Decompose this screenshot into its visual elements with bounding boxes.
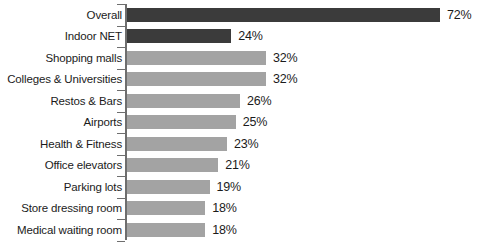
bar-row: Restos & Bars26%: [0, 90, 480, 112]
category-label: Indoor NET: [65, 30, 122, 42]
bar-track: [127, 158, 218, 172]
bar: [127, 8, 440, 22]
bar-row: Colleges & Universities32%: [0, 69, 480, 91]
bar-row: Office elevators21%: [0, 155, 480, 177]
bar: [127, 29, 231, 43]
bar-value-label: 18%: [212, 223, 236, 236]
category-label: Office elevators: [45, 159, 122, 171]
bar-track: [127, 29, 231, 43]
bar-value-label: 24%: [238, 30, 262, 43]
bar-value-label: 18%: [212, 202, 236, 215]
bar: [127, 201, 205, 215]
bar-value-label: 21%: [225, 159, 249, 172]
category-label: Colleges & Universities: [7, 73, 122, 85]
bar-value-label: 19%: [217, 180, 241, 193]
bar: [127, 180, 210, 194]
bar: [127, 158, 218, 172]
category-label: Store dressing room: [21, 202, 122, 214]
category-label: Restos & Bars: [50, 95, 122, 107]
bar-value-label: 72%: [447, 8, 471, 21]
bar-track: [127, 8, 440, 22]
bar-value-label: 32%: [273, 51, 297, 64]
bar-value-label: 25%: [243, 116, 267, 129]
category-label: Overall: [87, 9, 122, 21]
bar-row: Health & Fitness23%: [0, 133, 480, 155]
bar-track: [127, 72, 266, 86]
bar-track: [127, 115, 236, 129]
bar-track: [127, 180, 210, 194]
bar-row: Airports25%: [0, 112, 480, 134]
bar: [127, 94, 240, 108]
bar: [127, 137, 227, 151]
horizontal-bar-chart: Overall72%Indoor NET24%Shopping malls32%…: [0, 0, 480, 248]
bar-row: Parking lots19%: [0, 176, 480, 198]
bar-value-label: 32%: [273, 73, 297, 86]
bar: [127, 223, 205, 237]
bar-row: Indoor NET24%: [0, 26, 480, 48]
bar-track: [127, 94, 240, 108]
category-label: Airports: [84, 116, 122, 128]
category-label: Shopping malls: [45, 52, 122, 64]
bar-track: [127, 137, 227, 151]
category-label: Health & Fitness: [40, 138, 122, 150]
bar: [127, 72, 266, 86]
bar: [127, 115, 236, 129]
bar-row: Overall72%: [0, 4, 480, 26]
bar-track: [127, 223, 205, 237]
bar-track: [127, 201, 205, 215]
bar-value-label: 23%: [234, 137, 258, 150]
category-label: Parking lots: [64, 181, 122, 193]
bar: [127, 51, 266, 65]
bar-row: Store dressing room18%: [0, 198, 480, 220]
bar-value-label: 26%: [247, 94, 271, 107]
axis-tick: [117, 241, 125, 242]
bar-row: Medical waiting room18%: [0, 219, 480, 241]
category-label: Medical waiting room: [17, 224, 122, 236]
bar-row: Shopping malls32%: [0, 47, 480, 69]
bar-track: [127, 51, 266, 65]
